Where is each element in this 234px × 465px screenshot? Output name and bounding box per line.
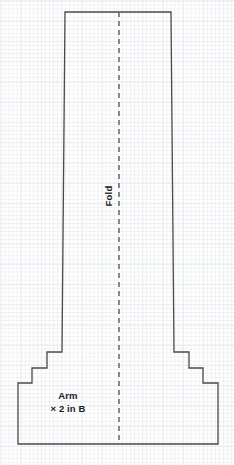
- pattern-sheet: Fold Arm × 2 in B: [0, 0, 234, 465]
- piece-label: Arm × 2 in B: [51, 389, 86, 415]
- pattern-drawing: [0, 0, 234, 465]
- arm-piece-outline: [18, 12, 218, 444]
- fold-label: Fold: [103, 186, 114, 207]
- piece-quantity-label: × 2 in B: [51, 402, 86, 415]
- piece-name-label: Arm: [51, 389, 86, 402]
